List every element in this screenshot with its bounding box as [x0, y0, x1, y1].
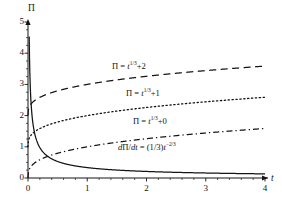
series-curve-2: [28, 128, 265, 178]
x-tick-label: 3: [200, 184, 212, 193]
label-pi-plus-2: Π = t1/3+2: [112, 61, 146, 70]
x-tick-label: 2: [141, 184, 153, 193]
y-tick-label: 3: [13, 79, 24, 88]
curves-group: [28, 37, 265, 178]
x-tick-label: 0: [22, 184, 34, 193]
x-tick-label: 4: [259, 184, 271, 193]
label-derivative: dΠ/dt = (1/3)t−2/3: [118, 142, 176, 151]
x-tick-label: 1: [81, 184, 93, 193]
y-tick-label: 4: [13, 48, 24, 57]
series-curve-3: [29, 37, 265, 174]
figure: Π t 012345 01234 Π = t1/3+2Π = t1/3+1Π =…: [0, 0, 282, 202]
y-tick-label: 0: [13, 173, 24, 182]
label-pi-plus-0: Π = t1/3+0: [133, 116, 167, 125]
y-tick-label: 5: [13, 17, 24, 26]
chart-canvas: [0, 0, 282, 202]
y-axis-title: Π: [28, 4, 35, 14]
x-axis-title: t: [271, 174, 274, 184]
label-pi-plus-1: Π = t1/3+1: [126, 88, 160, 97]
y-tick-label: 1: [13, 142, 24, 151]
y-tick-label: 2: [13, 111, 24, 120]
